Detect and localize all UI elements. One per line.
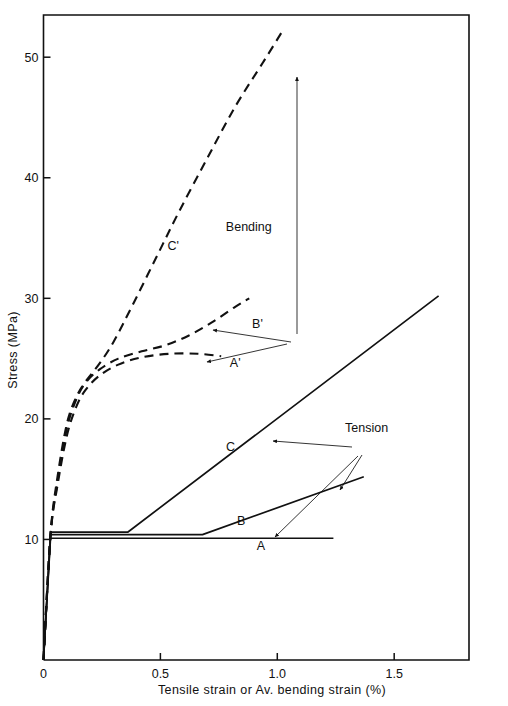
curve-A-prime [44,353,222,660]
curve-label-C-prime: C' [168,239,179,253]
curve-B [44,477,364,660]
leader-bending-to-bprime [213,330,291,342]
annotation-leaders [207,77,362,537]
curve-B-prime [44,298,250,660]
curve-label-B: B [237,514,245,528]
y-tick-label: 50 [25,51,39,65]
leader-tension-to-b [340,455,362,490]
figure-stress-strain: 00.51.01.5 1020304050 ABCA'B'C'BendingTe… [0,0,508,706]
y-axis-ticks: 1020304050 [25,51,51,547]
leader-tension-to-c [273,441,352,447]
annotation-bending: Bending [226,220,272,234]
curve-A [44,538,334,660]
leader-tension-to-a [275,456,358,537]
y-tick-label: 10 [25,533,39,547]
x-tick-label: 1.5 [385,667,402,681]
x-tick-label: 0.5 [152,667,169,681]
curve-labels: ABCA'B'C'BendingTension [168,220,389,553]
curve-label-C: C [226,440,235,454]
axes [44,15,470,660]
annotation-tension: Tension [345,421,388,435]
data-curves [44,32,439,660]
curve-label-B-prime: B' [252,317,263,331]
y-tick-label: 30 [25,292,39,306]
y-tick-label: 40 [25,171,39,185]
curve-C [44,296,439,660]
chart-canvas: 00.51.01.5 1020304050 ABCA'B'C'BendingTe… [0,0,508,706]
curve-label-A-prime: A' [230,356,241,370]
y-tick-label: 20 [25,412,39,426]
leader-bending-to-aprime [207,344,287,362]
curve-C-prime [44,32,282,660]
plot-frame [44,15,470,660]
x-tick-label: 1.0 [269,667,286,681]
x-axis-title: Tensile strain or Av. bending strain (%) [158,683,386,697]
x-tick-label: 0 [40,667,47,681]
curve-label-A: A [257,539,266,553]
y-axis-title: Stress (MPa) [6,311,20,389]
x-axis-ticks: 00.51.01.5 [40,653,403,681]
